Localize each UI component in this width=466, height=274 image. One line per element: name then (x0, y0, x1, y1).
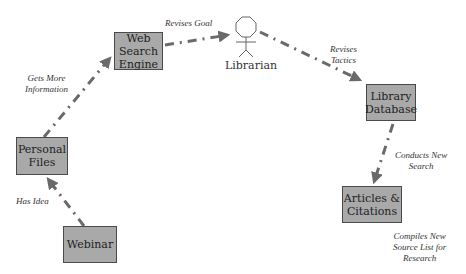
node-web-search-engine[interactable]: Web Search Engine (114, 32, 163, 70)
node-personal-files[interactable]: Personal Files (16, 137, 68, 175)
actor-label-librarian: Librarian (225, 59, 277, 72)
edge-label-compiles-new-source-list: Compiles New Source List for Research (393, 231, 446, 264)
node-webinar[interactable]: Webinar (63, 226, 117, 263)
edge-webinar-to-personal-files (48, 179, 84, 226)
edge-label-revises-tactics: Revises Tactics (330, 44, 357, 66)
librarian-icon (236, 17, 256, 57)
node-articles-citations[interactable]: Articles & Citations (342, 186, 402, 223)
edge-label-conducts-new-search: Conducts New Search (395, 150, 447, 172)
node-library-database[interactable]: Library Database (366, 84, 416, 121)
edge-label-revises-goal: Revises Goal (165, 18, 212, 29)
edge-personal-files-to-web-search (44, 58, 110, 137)
edge-library-database-to-articles (374, 124, 393, 182)
edge-label-has-idea: Has Idea (16, 196, 49, 207)
edge-web-search-to-librarian (165, 35, 228, 45)
edge-label-gets-more-information: Gets More Information (25, 73, 68, 95)
